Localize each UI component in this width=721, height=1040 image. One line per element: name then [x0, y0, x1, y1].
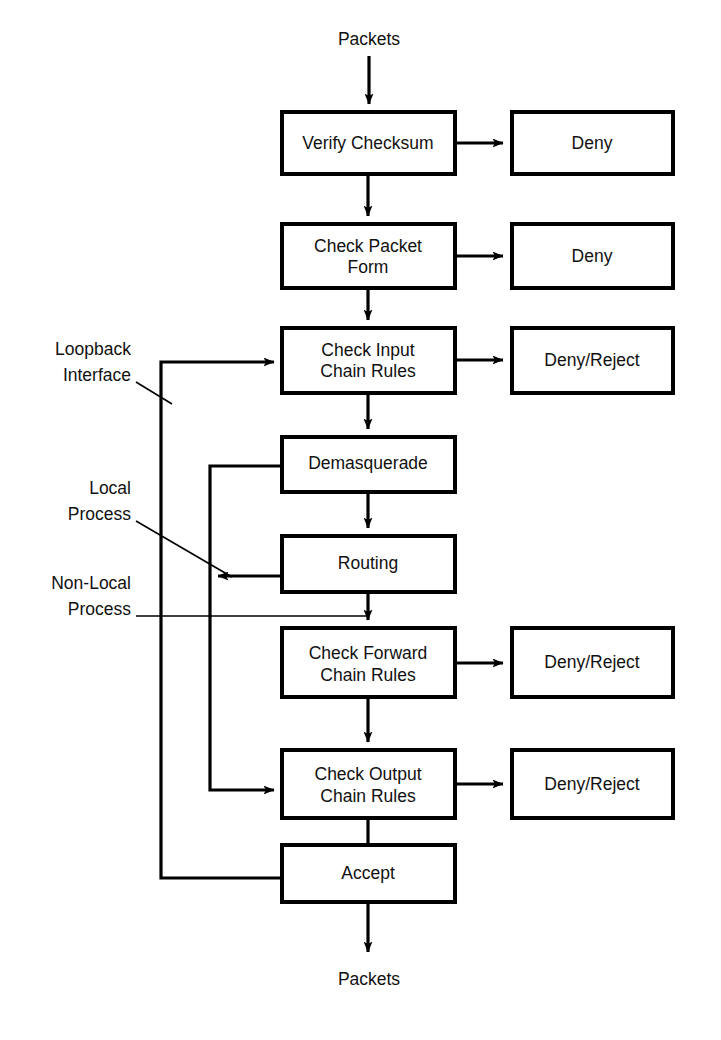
leader-local-process [136, 521, 232, 577]
box-check-forward-label-2: Chain Rules [320, 665, 416, 685]
box-check-output-chain-rules[interactable] [282, 750, 455, 818]
side-label-non-local-process-line1: Non-Local [51, 573, 131, 593]
packet-filter-flowchart: Packets Verify Checksum Check Packet For… [0, 0, 721, 1040]
diagram-canvas: Packets Verify Checksum Check Packet For… [0, 0, 721, 1040]
box-deny-reject-output-label: Deny/Reject [544, 774, 639, 794]
box-verify-checksum-label: Verify Checksum [302, 133, 433, 153]
box-check-packet-form-label-1: Check Packet [314, 236, 422, 256]
box-deny-reject-input-label: Deny/Reject [544, 350, 639, 370]
output-packets-label: Packets [338, 969, 400, 989]
side-label-loopback-line2: Interface [63, 365, 131, 385]
box-check-input-label-2: Chain Rules [320, 361, 416, 381]
box-check-output-label-1: Check Output [315, 764, 422, 784]
side-label-loopback-line1: Loopback [55, 339, 131, 359]
box-deny-packet-form-label: Deny [572, 246, 613, 266]
box-accept-label: Accept [341, 863, 395, 883]
box-check-forward-label-1: Check Forward [309, 643, 428, 663]
side-label-local-process-line2: Process [68, 504, 131, 524]
path-local-process-to-check-output [210, 466, 282, 790]
side-label-non-local-process-line2: Process [68, 599, 131, 619]
box-check-output-label-2: Chain Rules [320, 786, 416, 806]
box-deny-reject-forward-label: Deny/Reject [544, 652, 639, 672]
leader-loopback-interface [136, 382, 172, 404]
input-packets-label: Packets [338, 29, 400, 49]
box-routing-label: Routing [338, 553, 398, 573]
box-demasquerade-label: Demasquerade [308, 453, 428, 473]
path-loopback-accept-to-check-input [161, 362, 282, 878]
box-check-input-label-1: Check Input [321, 340, 415, 360]
box-deny-checksum-label: Deny [572, 133, 613, 153]
box-check-packet-form-label-2: Form [348, 257, 389, 277]
side-label-local-process-line1: Local [89, 478, 131, 498]
